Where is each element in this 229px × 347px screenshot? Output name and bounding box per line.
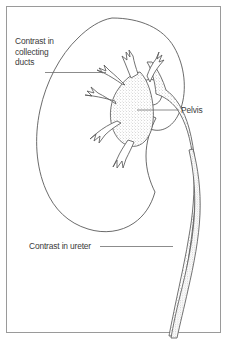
figure-root: Contrast in collecting ducts Pelvis Cont… <box>0 0 229 347</box>
label-collecting-ducts: Contrast in collecting ducts <box>15 36 54 68</box>
label-collecting-ducts-line2: collecting <box>15 47 54 58</box>
label-contrast-in-ureter: Contrast in ureter <box>29 241 91 252</box>
label-collecting-ducts-line1: Contrast in <box>15 36 54 47</box>
label-collecting-ducts-line3: ducts <box>15 57 54 68</box>
calyx-upper-1 <box>122 50 138 78</box>
calyx-lower <box>113 140 134 168</box>
calyx-upper-left <box>97 65 125 85</box>
renal-pelvis-body <box>110 72 153 146</box>
label-pelvis: Pelvis <box>181 105 202 116</box>
calyx-mid-left <box>85 87 116 104</box>
renal-pelvis <box>147 62 196 336</box>
